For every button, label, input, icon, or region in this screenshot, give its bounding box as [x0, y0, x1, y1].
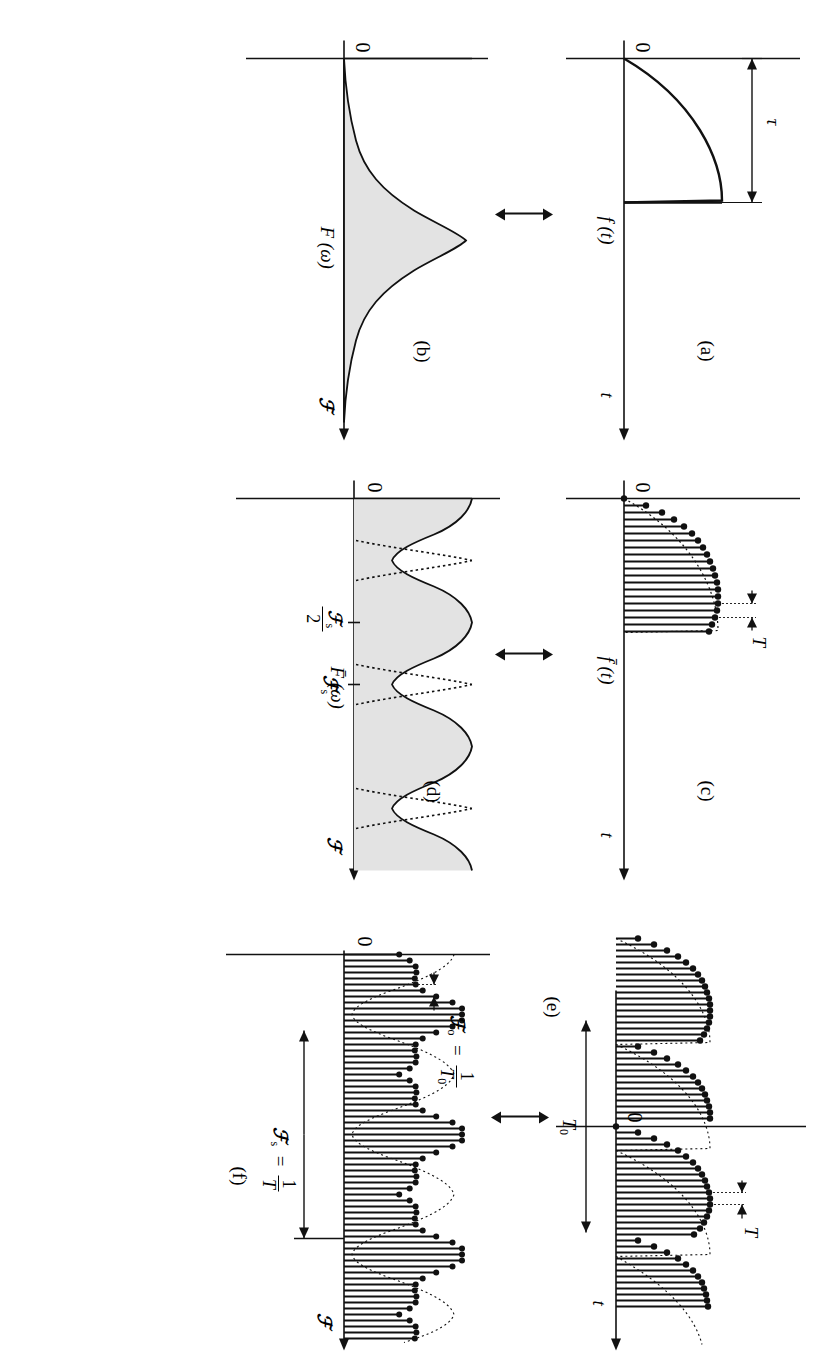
panel-e-spacing-label: T: [740, 1226, 762, 1237]
panel-f-fs-lhs: ℱ: [270, 1126, 291, 1141]
panel-f-fs-den: T: [259, 1175, 278, 1191]
panel-d-tick-fs-half: ℱs 2: [304, 606, 344, 631]
panel-a-letter: (a): [696, 340, 718, 361]
panel-f-fs-label: ℱs = 1 T: [259, 1126, 298, 1191]
panel-a-signal-label: f (t): [596, 216, 618, 244]
connector-e-to-f: [500, 1115, 540, 1117]
panel-e-period-label: T0: [556, 1118, 580, 1135]
panel-d-letter: (d): [422, 780, 444, 802]
panel-d-tick-fs-num: ℱ: [320, 674, 341, 689]
panel-f-axis-label: ℱ: [313, 1312, 336, 1327]
panel-d-plot: [234, 480, 504, 880]
figure-stage: 0 τ f (t) t (a) 0 F (ω) ℱ (b): [0, 0, 824, 1371]
panel-e: 0 T0 T t (e): [554, 930, 814, 1350]
connector-c-to-d: [504, 652, 544, 654]
panel-e-axis-label: t: [588, 1300, 610, 1305]
panel-a: 0 τ f (t) t (a): [564, 40, 814, 440]
panel-f-fo-lhs-sub: o: [445, 1029, 459, 1035]
panel-c: 0 T f̄ (t) t (c): [564, 480, 814, 880]
panel-d-origin-label: 0: [363, 482, 386, 492]
panel-e-period-letter: T: [559, 1118, 580, 1129]
panel-f-fs-den-letter: T: [259, 1178, 279, 1188]
panel-d-tick-fs-half-num: ℱ: [325, 609, 345, 623]
connector-a-to-b: [504, 212, 544, 214]
panel-f-fs-num: 1: [278, 1175, 298, 1191]
panel-d: 0 F̄ (ω) ℱs 2 ℱs ℱ (d): [234, 480, 504, 880]
panel-f-fs-lhs-sub: s: [268, 1141, 282, 1146]
panel-f-origin-label: 0: [353, 936, 376, 946]
panel-b-plot: [244, 40, 494, 440]
panel-f-letter: (f): [228, 1166, 250, 1185]
panel-c-axis-label: t: [596, 832, 618, 837]
panel-c-signal-label: f̄ (t): [596, 656, 618, 684]
panel-f-fo-num: 1: [456, 1065, 476, 1087]
panel-b-origin-label: 0: [351, 42, 374, 52]
panel-c-spacing-label: T: [748, 636, 770, 647]
panel-d-tick-fs-sub: s: [318, 689, 332, 694]
panel-b-letter: (b): [412, 340, 434, 362]
panel-b: 0 F (ω) ℱ (b): [244, 40, 494, 440]
panel-a-axis-label: t: [596, 392, 618, 397]
panel-d-tick-fs-half-den: 2: [304, 606, 323, 631]
panel-e-plot: [554, 930, 814, 1350]
panel-f-fo-label: ℱo = 1 T0: [436, 1014, 476, 1087]
panel-d-tick-fs-half-sub: s: [323, 623, 337, 628]
panel-c-origin-label: 0: [631, 482, 654, 492]
panel-f-fo-equals: =: [447, 1040, 468, 1060]
panel-b-axis-label: ℱ: [315, 396, 338, 411]
panel-f-fo-den-letter: T: [437, 1068, 457, 1078]
panel-d-axis-label: ℱ: [323, 836, 346, 851]
panel-a-origin-label: 0: [631, 42, 654, 52]
panel-a-tau-label: τ: [762, 118, 784, 125]
panel-f-fo-den-sub: 0: [435, 1078, 449, 1084]
panel-f-fo-lhs: ℱ: [447, 1014, 468, 1029]
panel-e-period-sub: 0: [557, 1129, 571, 1135]
panel-f-fs-equals: =: [270, 1150, 291, 1170]
panel-f: 0 ℱo = 1 T0 ℱs = 1 T ℱ (f): [224, 930, 494, 1350]
panel-e-letter: (e): [542, 996, 564, 1017]
panel-d-tick-fs: ℱs: [317, 674, 342, 694]
panel-b-signal-label: F (ω): [316, 226, 338, 268]
panel-c-letter: (c): [696, 780, 718, 801]
panel-f-fo-den: T0: [436, 1065, 457, 1087]
panel-e-origin-label: 0: [623, 1112, 646, 1122]
